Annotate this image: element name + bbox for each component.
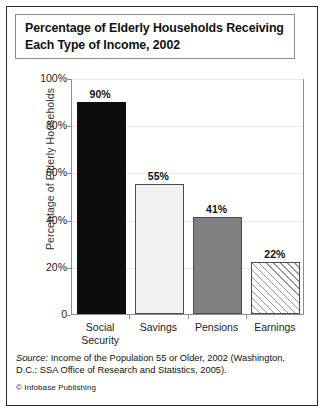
- source-note: Source: Income of the Population 55 or O…: [16, 352, 308, 377]
- y-axis-tick-label: 20%: [33, 261, 67, 273]
- x-axis-category-label-3: Pensions: [185, 321, 249, 334]
- x-axis-tick-mark: [188, 315, 189, 319]
- y-axis-ticks: 020%40%60%80%100%: [29, 79, 67, 315]
- bar-value-label-1: 90%: [70, 88, 130, 100]
- bar-1: [77, 102, 126, 314]
- bar-4: [251, 262, 300, 314]
- plot-area: [71, 79, 304, 315]
- chart-title-box: Percentage of Elderly Households Receivi…: [15, 14, 295, 59]
- y-axis-tick-label: 80%: [33, 119, 67, 131]
- figure-footer: Source: Income of the Population 55 or O…: [16, 352, 308, 392]
- gridline: [72, 79, 303, 80]
- figure-panel: Percentage of Elderly Households Receivi…: [6, 6, 318, 406]
- x-axis-category-label-4: Earnings: [243, 321, 307, 334]
- y-axis-tick-label: 40%: [33, 214, 67, 226]
- bar-3: [193, 217, 242, 314]
- chart-title: Percentage of Elderly Households Receivi…: [25, 20, 291, 53]
- x-axis-category-label-2: Savings: [126, 321, 190, 334]
- x-axis-category-label-1: Social Security: [68, 321, 132, 347]
- chart-region: Percentage of Elderly Households 020%40%…: [7, 63, 317, 343]
- source-label: Source:: [16, 353, 48, 363]
- y-axis-tick-label: 0: [33, 308, 67, 320]
- bar-value-label-3: 41%: [187, 203, 247, 215]
- y-axis-tick-mark: [67, 315, 71, 316]
- x-axis-tick-mark: [246, 315, 247, 319]
- copyright-note: © Infobase Publishing: [16, 383, 308, 392]
- bar-value-label-2: 55%: [128, 170, 188, 182]
- bar-2: [135, 184, 184, 314]
- bar-value-label-4: 22%: [245, 248, 305, 260]
- y-axis-tick-label: 100%: [33, 72, 67, 84]
- y-axis-tick-label: 60%: [33, 166, 67, 178]
- x-axis-tick-mark: [129, 315, 130, 319]
- source-text: Income of the Population 55 or Older, 20…: [16, 353, 285, 375]
